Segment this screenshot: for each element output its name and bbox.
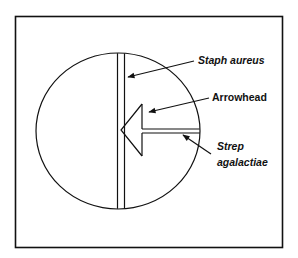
arrowhead-leader-arrow — [149, 98, 209, 112]
staph-aureus-label: Staph aureus — [198, 54, 265, 66]
staph-leader-arrow — [128, 61, 194, 77]
strep-label-line1: Strep — [217, 140, 244, 152]
camp-test-diagram: Staph aureus Arrowhead Strep agalactiae — [0, 0, 298, 258]
arrowhead-label: Arrowhead — [212, 91, 267, 103]
strep-label-line2: agalactiae — [217, 156, 268, 168]
figure-frame — [16, 17, 283, 248]
staph-aureus-streak — [118, 53, 125, 209]
strep-agalactiae-streak — [142, 129, 200, 133]
